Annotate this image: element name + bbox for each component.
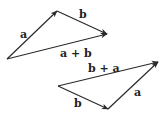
vector-diagram: a b a + b b + a b a	[0, 0, 164, 114]
vector-b-arrow	[58, 86, 108, 109]
bottom-triangle: b + a b a	[58, 62, 158, 110]
label-a-plus-b: a + b	[60, 47, 92, 60]
label-b: b	[79, 8, 87, 21]
top-triangle: a b a + b	[7, 8, 107, 60]
vector-a-arrow	[7, 11, 57, 59]
label-b: b	[74, 97, 82, 110]
label-a: a	[20, 28, 27, 41]
label-b-plus-a: b + a	[88, 62, 120, 75]
label-a: a	[134, 86, 141, 99]
